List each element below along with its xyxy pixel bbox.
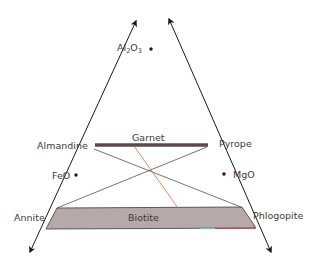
garnet-label: Garnet	[132, 133, 165, 143]
pyrope-label: Pyrope	[219, 139, 252, 149]
mgo-point	[222, 172, 225, 175]
annite-label: Annite	[14, 213, 45, 223]
al2o3-label-o: O	[130, 42, 137, 53]
garnet-biotite-tie-line	[134, 146, 178, 208]
phlogopite-label: Phlogopite	[253, 211, 303, 221]
tie-line-pyrope-annite	[57, 147, 207, 208]
al2o3-label-sub3: 3	[138, 47, 142, 55]
al2o3-label-sub2: 2	[126, 47, 130, 55]
al2o3-point	[149, 47, 152, 50]
biotite-label: Biotite	[128, 213, 159, 223]
ternary-diagram: Al2O3 Garnet Almandine Pyrope FeO MgO An…	[0, 0, 315, 274]
tie-line-almandine-phlogopite	[94, 149, 241, 207]
mgo-label: MgO	[233, 170, 255, 180]
almandine-label: Almandine	[37, 141, 88, 151]
al2o3-label-al: Al	[117, 42, 126, 53]
feo-point	[74, 173, 77, 176]
feo-label: FeO	[52, 171, 70, 181]
al2o3-label: Al2O3	[117, 43, 142, 53]
